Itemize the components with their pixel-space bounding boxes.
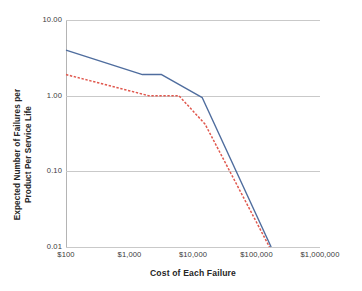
plot-area	[66, 20, 320, 247]
x-tick-label: $1,000,000	[285, 250, 355, 259]
y-tick-label: 1.00	[20, 91, 62, 100]
line-chart: Expected Number of Failures per Product …	[0, 0, 362, 291]
x-tick-label: $100,000	[222, 250, 292, 259]
x-tick-label: $100	[31, 250, 101, 259]
series-line-series-2	[66, 75, 269, 247]
y-tick-label: 10.00	[20, 15, 62, 24]
y-axis-tick-labels: 10.001.000.100.01	[18, 20, 62, 247]
y-tick-label: 0.10	[20, 166, 62, 175]
series-layer	[66, 20, 320, 247]
series-line-series-1	[66, 50, 271, 247]
x-tick-label: $1,000	[95, 250, 165, 259]
gridline-y	[66, 247, 320, 248]
x-axis-tick-labels: $100$1,000$10,000$100,000$1,000,000	[66, 250, 320, 264]
x-tick-label: $10,000	[158, 250, 228, 259]
x-axis-title: Cost of Each Failure	[66, 268, 320, 278]
